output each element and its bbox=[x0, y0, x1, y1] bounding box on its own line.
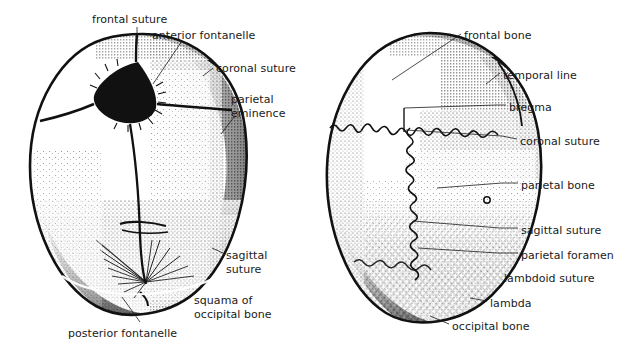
label-coronal-suture: coronal suture bbox=[216, 62, 296, 76]
label-frontal-bone: frontal bone bbox=[464, 29, 532, 43]
label-parietal-foramen: parietal foramen bbox=[521, 249, 614, 263]
skull-illustrations bbox=[0, 0, 631, 355]
label-coronal-suture-r: coronal suture bbox=[520, 135, 600, 149]
label-posterior-fontanelle: posterior fontanelle bbox=[68, 327, 177, 341]
label-temporal-line: temporal line bbox=[503, 69, 577, 83]
label-lambda: lambda bbox=[490, 297, 532, 311]
label-parietal-eminence: parietal eminence bbox=[231, 93, 285, 120]
label-lambdoid-suture: lambdoid suture bbox=[504, 272, 595, 286]
label-bregma: bregma bbox=[509, 101, 552, 115]
label-parietal-bone: parietal bone bbox=[521, 179, 595, 193]
adult-skull-drawing bbox=[300, 0, 631, 355]
anatomical-figure: frontal suture anterior fontanelle coron… bbox=[0, 0, 631, 355]
label-occipital-bone: occipital bone bbox=[452, 320, 530, 334]
label-anterior-fontanelle: anterior fontanelle bbox=[152, 29, 255, 43]
label-squama-occipital-bone: squama of occipital bone bbox=[194, 294, 272, 321]
label-sagittal-suture-r: sagittal suture bbox=[521, 224, 601, 238]
label-sagittal-suture: sagittal suture bbox=[226, 249, 267, 276]
label-frontal-suture: frontal suture bbox=[92, 13, 167, 27]
